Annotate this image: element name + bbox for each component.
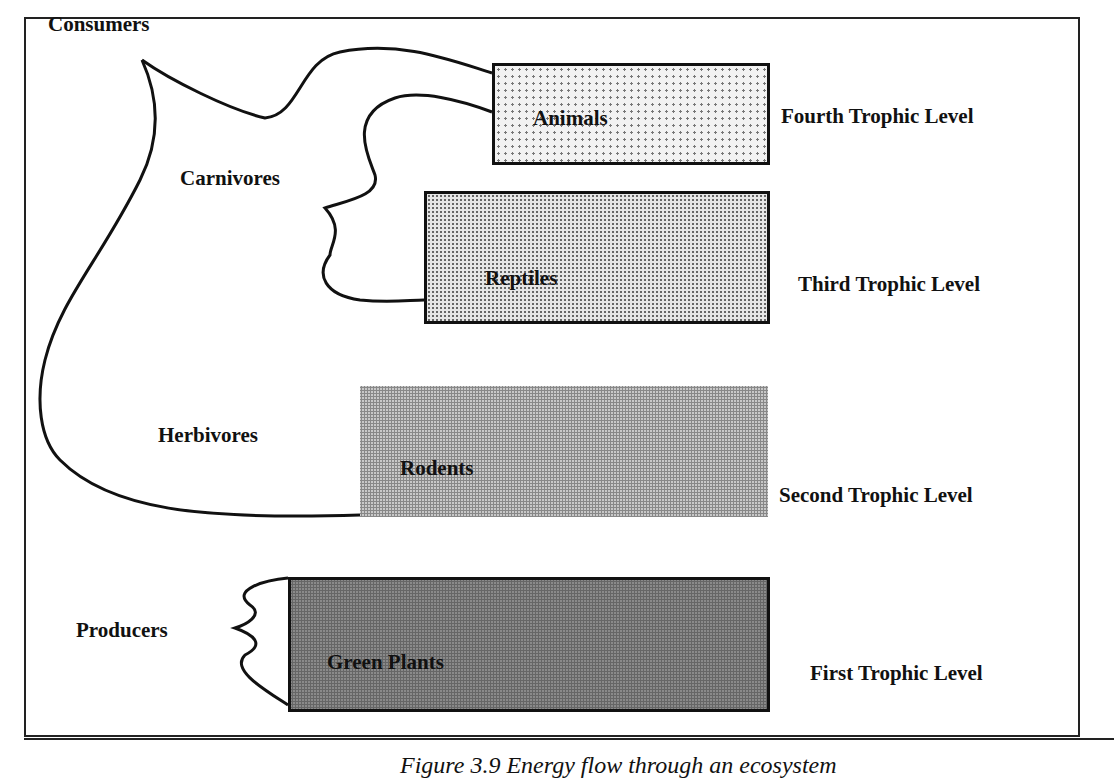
second-level-label: Second Trophic Level — [779, 483, 973, 508]
herbivores-label: Herbivores — [158, 423, 258, 448]
reptiles-box: Reptiles — [424, 191, 770, 324]
animals-label: Animals — [533, 106, 608, 131]
rodents-box: Rodents — [360, 386, 768, 517]
figure-caption: Figure 3.9 Energy flow through an ecosys… — [400, 752, 837, 779]
animals-box: Animals — [492, 63, 770, 165]
caption-divider — [24, 738, 1114, 740]
rodents-label: Rodents — [400, 456, 474, 481]
green-plants-box: Green Plants — [288, 577, 770, 712]
reptiles-label: Reptiles — [485, 266, 557, 291]
fourth-level-label: Fourth Trophic Level — [781, 104, 974, 129]
consumers-label: Consumers — [48, 12, 150, 37]
producers-label: Producers — [76, 618, 168, 643]
first-level-label: First Trophic Level — [810, 661, 983, 686]
third-level-label: Third Trophic Level — [798, 272, 980, 297]
carnivores-label: Carnivores — [180, 166, 280, 191]
green-plants-label: Green Plants — [327, 650, 444, 675]
